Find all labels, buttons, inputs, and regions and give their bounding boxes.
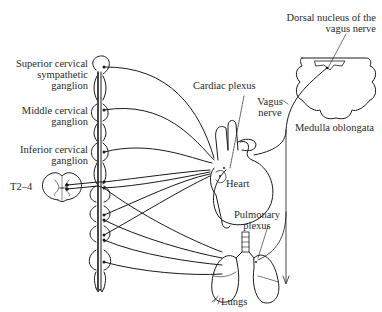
label-line: nerve — [250, 107, 290, 118]
label-vagus-nerve: Vagus nerve — [250, 96, 290, 118]
label-line: sympathetic — [6, 69, 88, 80]
label-line: Vagus — [250, 96, 290, 107]
label-inferior-cervical-ganglion: Inferior cervical ganglion — [6, 144, 88, 166]
label-line: vagus nerve — [270, 23, 376, 34]
medulla-oblongata-drawing — [296, 34, 375, 119]
label-middle-cervical-ganglion: Middle cervical ganglion — [6, 105, 88, 127]
label-line: Middle cervical — [6, 105, 88, 116]
label-pulmonary-plexus: Pulmonary plexus — [228, 209, 286, 231]
label-line: ganglion — [6, 116, 88, 127]
label-medulla-oblongata: Medulla oblongata — [295, 122, 374, 133]
label-heart: Heart — [226, 178, 249, 189]
label-line: Inferior cervical — [6, 144, 88, 155]
label-line: Dorsal nucleus of the — [270, 12, 376, 23]
sympathetic-chain — [89, 56, 111, 292]
label-line: ganglion — [6, 80, 88, 91]
label-line: plexus — [228, 220, 286, 231]
autonomic-innervation-diagram: Superior cervical sympathetic ganglion M… — [0, 0, 382, 312]
label-lungs: Lungs — [221, 296, 247, 307]
label-line: Pulmonary — [228, 209, 286, 220]
label-spinal-segment: T2–4 — [10, 181, 32, 192]
label-line: Superior cervical — [6, 58, 88, 69]
cardiac-sympathetic-fibers — [104, 67, 214, 235]
label-dorsal-nucleus-vagus: Dorsal nucleus of the vagus nerve — [270, 12, 376, 34]
label-line: ganglion — [6, 155, 88, 166]
label-superior-cervical-ganglion: Superior cervical sympathetic ganglion — [6, 58, 88, 91]
label-cardiac-plexus: Cardiac plexus — [193, 80, 256, 91]
